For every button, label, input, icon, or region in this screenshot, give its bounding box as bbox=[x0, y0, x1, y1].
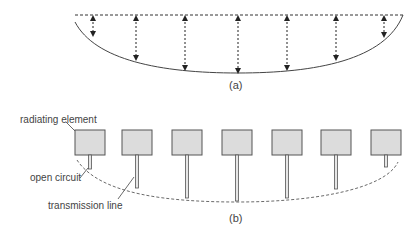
phase-arrows bbox=[93, 18, 384, 71]
radiating-element bbox=[75, 130, 105, 169]
transmission-line bbox=[236, 155, 239, 201]
patch bbox=[321, 130, 351, 155]
transmission-line bbox=[335, 155, 338, 189]
transmission-line bbox=[89, 155, 92, 169]
radiating-element bbox=[172, 130, 202, 198]
antenna-diagram: (a) radiating element open circuit trans… bbox=[0, 0, 416, 233]
patch bbox=[222, 130, 252, 155]
patch bbox=[172, 130, 202, 155]
patch bbox=[122, 130, 152, 155]
patch bbox=[371, 130, 401, 155]
label-open-circuit: open circuit bbox=[30, 172, 81, 183]
figure-b: radiating element open circuit transmiss… bbox=[20, 114, 401, 224]
radiating-element bbox=[122, 130, 152, 188]
caption-a: (a) bbox=[229, 79, 242, 91]
caption-b: (b) bbox=[229, 212, 242, 224]
radiating-element bbox=[222, 130, 252, 201]
radiating-element bbox=[272, 130, 302, 198]
patch bbox=[75, 130, 105, 155]
figure-a: (a) bbox=[75, 15, 403, 91]
transmission-line bbox=[136, 155, 139, 188]
transmission-line bbox=[186, 155, 189, 198]
leader-transmission-line bbox=[118, 177, 134, 199]
label-transmission-line: transmission line bbox=[48, 200, 123, 211]
transmission-line bbox=[385, 155, 388, 167]
radiating-element bbox=[371, 130, 401, 167]
label-radiating-element: radiating element bbox=[20, 114, 97, 125]
radiating-element bbox=[321, 130, 351, 189]
phase-curve bbox=[75, 15, 403, 73]
transmission-line bbox=[286, 155, 289, 198]
patch bbox=[272, 130, 302, 155]
leader-open-circuit bbox=[80, 168, 88, 178]
